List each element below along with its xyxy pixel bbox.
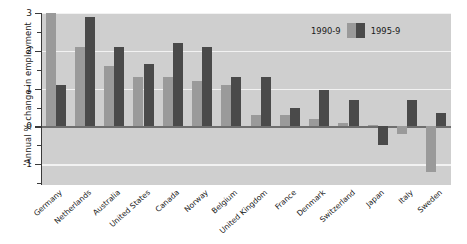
- bar: [46, 13, 56, 126]
- y-axis-tick: [35, 126, 41, 127]
- y-axis-tick-label: 3: [8, 8, 32, 18]
- bar: [56, 85, 66, 127]
- y-axis-minor-tick: [37, 145, 41, 146]
- gridline: [42, 164, 451, 165]
- bar: [290, 108, 300, 127]
- y-axis-tick: [35, 51, 41, 52]
- bar: [280, 115, 290, 126]
- legend-swatch-1990-9: [347, 23, 356, 38]
- bar: [251, 115, 261, 126]
- y-axis-minor-tick: [37, 70, 41, 71]
- bar: [221, 85, 231, 127]
- bar: [133, 77, 143, 126]
- gridline: [42, 51, 451, 52]
- bar: [104, 66, 114, 126]
- y-axis-tick-label: 1: [8, 84, 32, 94]
- bar: [85, 17, 95, 127]
- legend-label-1990-9: 1990-9: [305, 26, 347, 36]
- bar: [261, 77, 271, 126]
- y-axis-tick-label: 0: [8, 121, 32, 131]
- y-axis-minor-tick: [37, 32, 41, 33]
- bar: [407, 100, 417, 126]
- legend-label-1995-9: 1995-9: [365, 26, 407, 36]
- y-axis-minor-tick: [37, 108, 41, 109]
- bar: [338, 123, 348, 127]
- bar: [309, 119, 319, 127]
- bar: [163, 77, 173, 126]
- bar: [144, 64, 154, 126]
- y-axis-tick-label: 2: [8, 46, 32, 56]
- y-axis-tick: [35, 13, 41, 14]
- bar: [75, 47, 85, 126]
- y-axis-tick: [35, 164, 41, 165]
- bar: [202, 47, 212, 126]
- gridline: [42, 13, 451, 14]
- bar: [319, 90, 329, 126]
- legend-swatch-1995-9: [356, 23, 365, 38]
- bar: [192, 81, 202, 126]
- bar: [114, 47, 124, 126]
- bar: [231, 77, 241, 126]
- bar: [368, 125, 378, 127]
- legend: 1990-9 1995-9: [305, 22, 406, 39]
- bar: [378, 126, 388, 145]
- bar: [436, 113, 446, 126]
- y-axis-tick-label: -1: [8, 159, 32, 169]
- legend-swatches: [347, 23, 365, 38]
- bar: [349, 100, 359, 126]
- y-axis-tick: [35, 89, 41, 90]
- y-axis-minor-tick: [37, 183, 41, 184]
- bar: [397, 126, 407, 134]
- bar: [426, 126, 436, 171]
- zero-line: [42, 126, 451, 127]
- bar: [173, 43, 183, 126]
- bar-chart: Annual % change in employment 3210-1 Ger…: [0, 0, 467, 244]
